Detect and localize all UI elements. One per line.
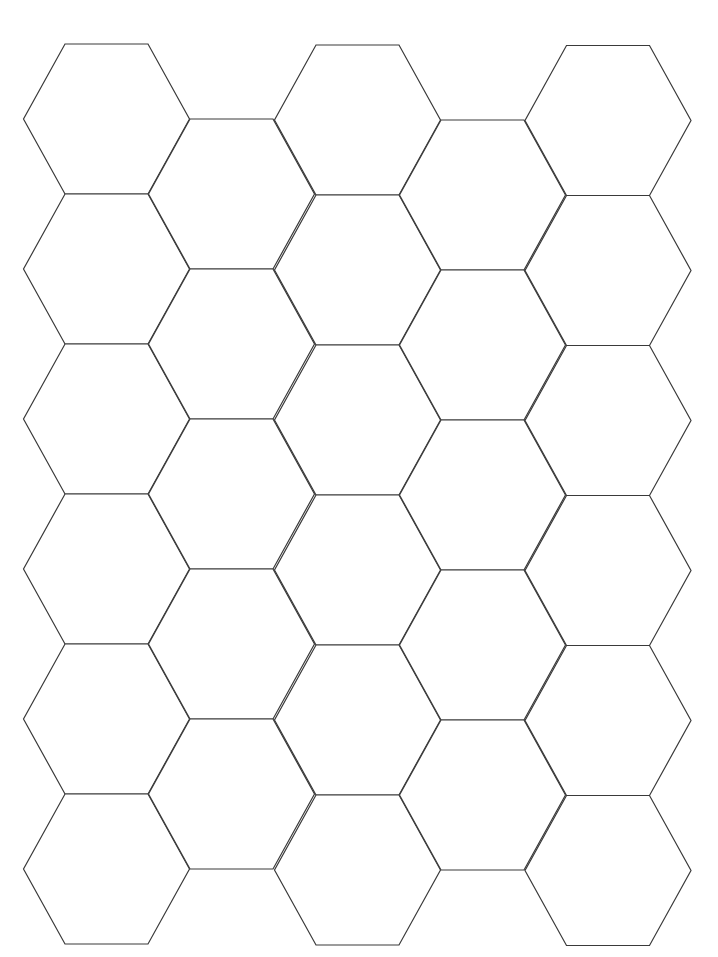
hexagon-grid	[0, 0, 718, 957]
